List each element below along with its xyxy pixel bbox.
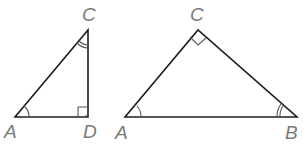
vertex-label-c-right: C <box>190 4 204 25</box>
angle-arc-a-left <box>24 106 29 117</box>
vertex-label-d: D <box>83 121 97 142</box>
right-angle-mark-c <box>190 37 206 45</box>
double-arc-b-inner <box>280 106 283 117</box>
triangle-acb-edges <box>125 30 297 117</box>
vertex-label-c-left: C <box>82 4 96 25</box>
triangle-acb: C A B <box>114 4 298 143</box>
vertex-label-b: B <box>285 122 298 143</box>
triangle-acd: C A D <box>3 4 97 142</box>
vertex-label-a-right: A <box>114 122 128 143</box>
angle-arc-a-right <box>137 106 141 117</box>
right-angle-mark-d <box>78 107 88 117</box>
similar-triangles-diagram: C A D C A B <box>0 0 307 146</box>
vertex-label-a-left: A <box>3 121 17 142</box>
double-arc-c-left-inner <box>79 41 88 45</box>
